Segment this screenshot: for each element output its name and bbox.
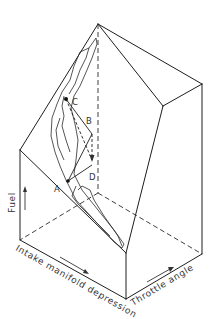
fuel-map-diagram: C B D A Fuel Intake manifold depression … bbox=[0, 0, 215, 319]
fuel-axis: Fuel bbox=[7, 186, 27, 213]
point-label-c: C bbox=[72, 97, 78, 107]
throttle-angle-axis: Throttle angle bbox=[128, 262, 195, 308]
fuel-axis-label: Fuel bbox=[7, 192, 17, 213]
intake-manifold-axis: Intake manifold depression bbox=[14, 243, 139, 319]
point-label-a: A bbox=[54, 184, 60, 194]
hidden-edges bbox=[20, 24, 202, 254]
box-outline bbox=[20, 24, 202, 299]
point-a-marker bbox=[66, 179, 70, 183]
point-label-d: D bbox=[89, 172, 96, 182]
intake-manifold-axis-label: Intake manifold depression bbox=[14, 243, 139, 319]
operating-path bbox=[64, 97, 95, 183]
throttle-angle-axis-label: Throttle angle bbox=[128, 262, 195, 308]
point-label-b: B bbox=[86, 116, 92, 126]
point-c-marker bbox=[64, 97, 68, 101]
